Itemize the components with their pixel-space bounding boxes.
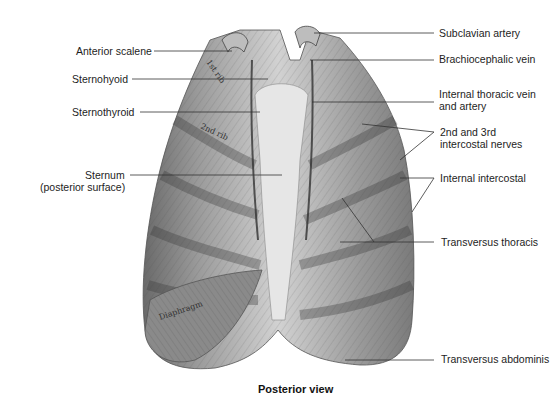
label-transversus-abdominis: Transversus abdominis (441, 353, 549, 365)
label-internal-thoracic: Internal thoracic vein (439, 88, 536, 100)
label-sternum-sub: (posterior surface) (40, 181, 125, 193)
label-transversus-thoracis: Transversus thoracis (441, 236, 538, 248)
label-internal-thoracic-sub: and artery (439, 100, 486, 112)
label-anterior-scalene: Anterior scalene (76, 45, 152, 57)
label-brachiocephalic-vein: Brachiocephalic vein (439, 53, 535, 65)
label-sternohyoid: Sternohyoid (72, 73, 128, 85)
label-internal-intercostal: Internal intercostal (440, 172, 526, 184)
label-sternum: Sternum (85, 169, 125, 181)
figure-caption: Posterior view (258, 383, 333, 395)
label-subclavian-artery: Subclavian artery (439, 27, 520, 39)
label-sternothyroid: Sternothyroid (72, 106, 134, 118)
label-intercostal-nerves-sub: intercostal nerves (440, 138, 522, 150)
anatomy-figure: 1st rib 2nd rib Diaphragm Anterior scale… (0, 0, 560, 404)
label-intercostal-nerves: 2nd and 3rd (440, 126, 496, 138)
